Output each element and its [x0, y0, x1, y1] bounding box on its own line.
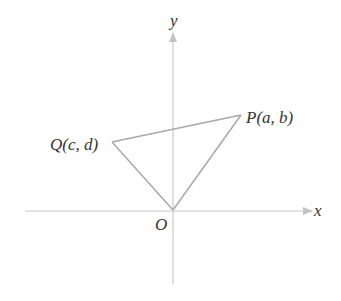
origin-label: O	[155, 215, 167, 234]
y-axis-label: y	[168, 11, 178, 30]
point-P-label: P(a, b)	[245, 108, 294, 127]
segment-OP	[173, 115, 241, 210]
point-Q-label: Q(c, d)	[50, 135, 98, 154]
coordinate-diagram: y x O P(a, b) Q(c, d)	[0, 0, 341, 301]
segment-PQ	[112, 115, 241, 142]
segment-QO	[112, 142, 173, 210]
x-axis-label: x	[313, 201, 322, 220]
